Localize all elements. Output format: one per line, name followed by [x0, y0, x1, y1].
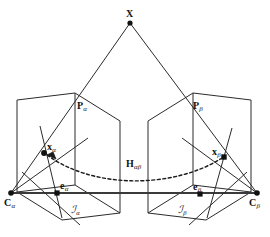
label-homography-subscript: αβ [134, 163, 141, 171]
label-epipole-alpha: eα [60, 181, 68, 193]
label-ray-beta: Pβ [193, 101, 203, 113]
epipolar-geometry-figure: X Pα Pβ xα xβ Hαβ eα eβ Cα Cβ ℐα ℐβ [0, 0, 270, 237]
label-image-plane-alpha-subscript: α [76, 209, 79, 216]
label-image-point-alpha: xα [47, 142, 56, 154]
image-plane-alpha-group [17, 93, 120, 220]
label-image-plane-alpha: ℐα [71, 205, 80, 216]
label-homography-symbol: H [126, 158, 134, 169]
camera-center-alpha-dot [8, 190, 14, 196]
camera-center-beta-dot [254, 190, 260, 196]
epipole-alpha-dot [54, 190, 59, 195]
pencil-line-alpha-secondary [22, 172, 80, 225]
label-epipole-alpha-subscript: α [65, 185, 69, 193]
label-scene-point: X [126, 9, 133, 21]
label-image-point-alpha-subscript: α [52, 146, 56, 154]
label-camera-center-beta: Cβ [249, 198, 260, 210]
label-epipole-beta-subscript: β [198, 186, 202, 194]
projection-ray-alpha [11, 23, 130, 193]
image-point-beta-dot [221, 154, 226, 159]
label-image-plane-beta: ℐβ [178, 205, 186, 216]
label-image-plane-beta-subscript: β [183, 209, 186, 216]
label-ray-beta-subscript: β [199, 105, 203, 113]
label-epipole-beta: eβ [193, 182, 201, 194]
label-epipole-beta-symbol: e [193, 181, 197, 192]
label-ray-alpha-subscript: α [83, 105, 87, 113]
epipolar-line-alpha [40, 126, 62, 218]
label-camera-center-beta-subscript: β [256, 202, 260, 210]
label-camera-center-alpha-subscript: α [11, 202, 15, 210]
label-homography: Hαβ [126, 159, 141, 171]
label-image-point-beta: xβ [212, 147, 221, 159]
label-epipole-alpha-symbol: e [60, 180, 64, 191]
figure-canvas [0, 0, 270, 237]
image-plane-beta-skew-edge-top [148, 93, 193, 121]
label-scene-point-symbol: X [126, 8, 133, 19]
label-image-point-beta-subscript: β [217, 151, 221, 159]
label-camera-center-alpha: Cα [4, 198, 15, 210]
label-ray-alpha: Pα [77, 101, 87, 113]
scene-point-dot [127, 20, 132, 25]
